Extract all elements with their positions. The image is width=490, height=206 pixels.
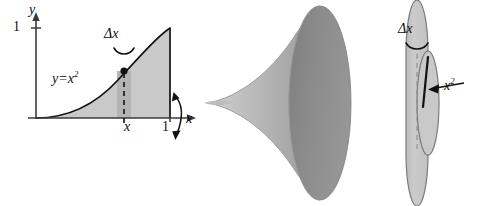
representative-disk-svg <box>370 0 490 206</box>
disk-radius-exponent: 2 <box>450 76 454 86</box>
graph-panel: y 1 y=x2 Δx x 1 x <box>0 0 200 206</box>
x-tick-label-one: 1 <box>162 120 169 134</box>
x-axis-label: x <box>186 112 192 126</box>
delta-x-label: Δx <box>104 27 118 41</box>
disk-thickness-label: Δx <box>398 22 412 36</box>
graph-svg <box>0 0 200 206</box>
y-tick-label-one: 1 <box>13 20 20 34</box>
curve-equation-label: y=x2 <box>52 72 78 86</box>
rotation-arrow-path <box>175 96 181 134</box>
rotation-arrow-head <box>172 131 180 140</box>
sample-point-dot <box>120 67 127 74</box>
solid-of-revolution-figure: y 1 y=x2 Δx x 1 x <box>0 0 490 206</box>
delta-x-brace <box>114 48 134 54</box>
solid-of-revolution-svg <box>200 0 370 206</box>
disk-panel: Δx x2 <box>370 0 490 206</box>
y-axis-label: y <box>29 3 35 17</box>
curve-label-exponent: 2 <box>74 69 78 79</box>
solid-panel <box>200 0 370 206</box>
disk-radius-label: x2 <box>444 79 455 93</box>
curve-label-equals: = <box>58 71 67 86</box>
x-sample-label: x <box>124 120 130 134</box>
